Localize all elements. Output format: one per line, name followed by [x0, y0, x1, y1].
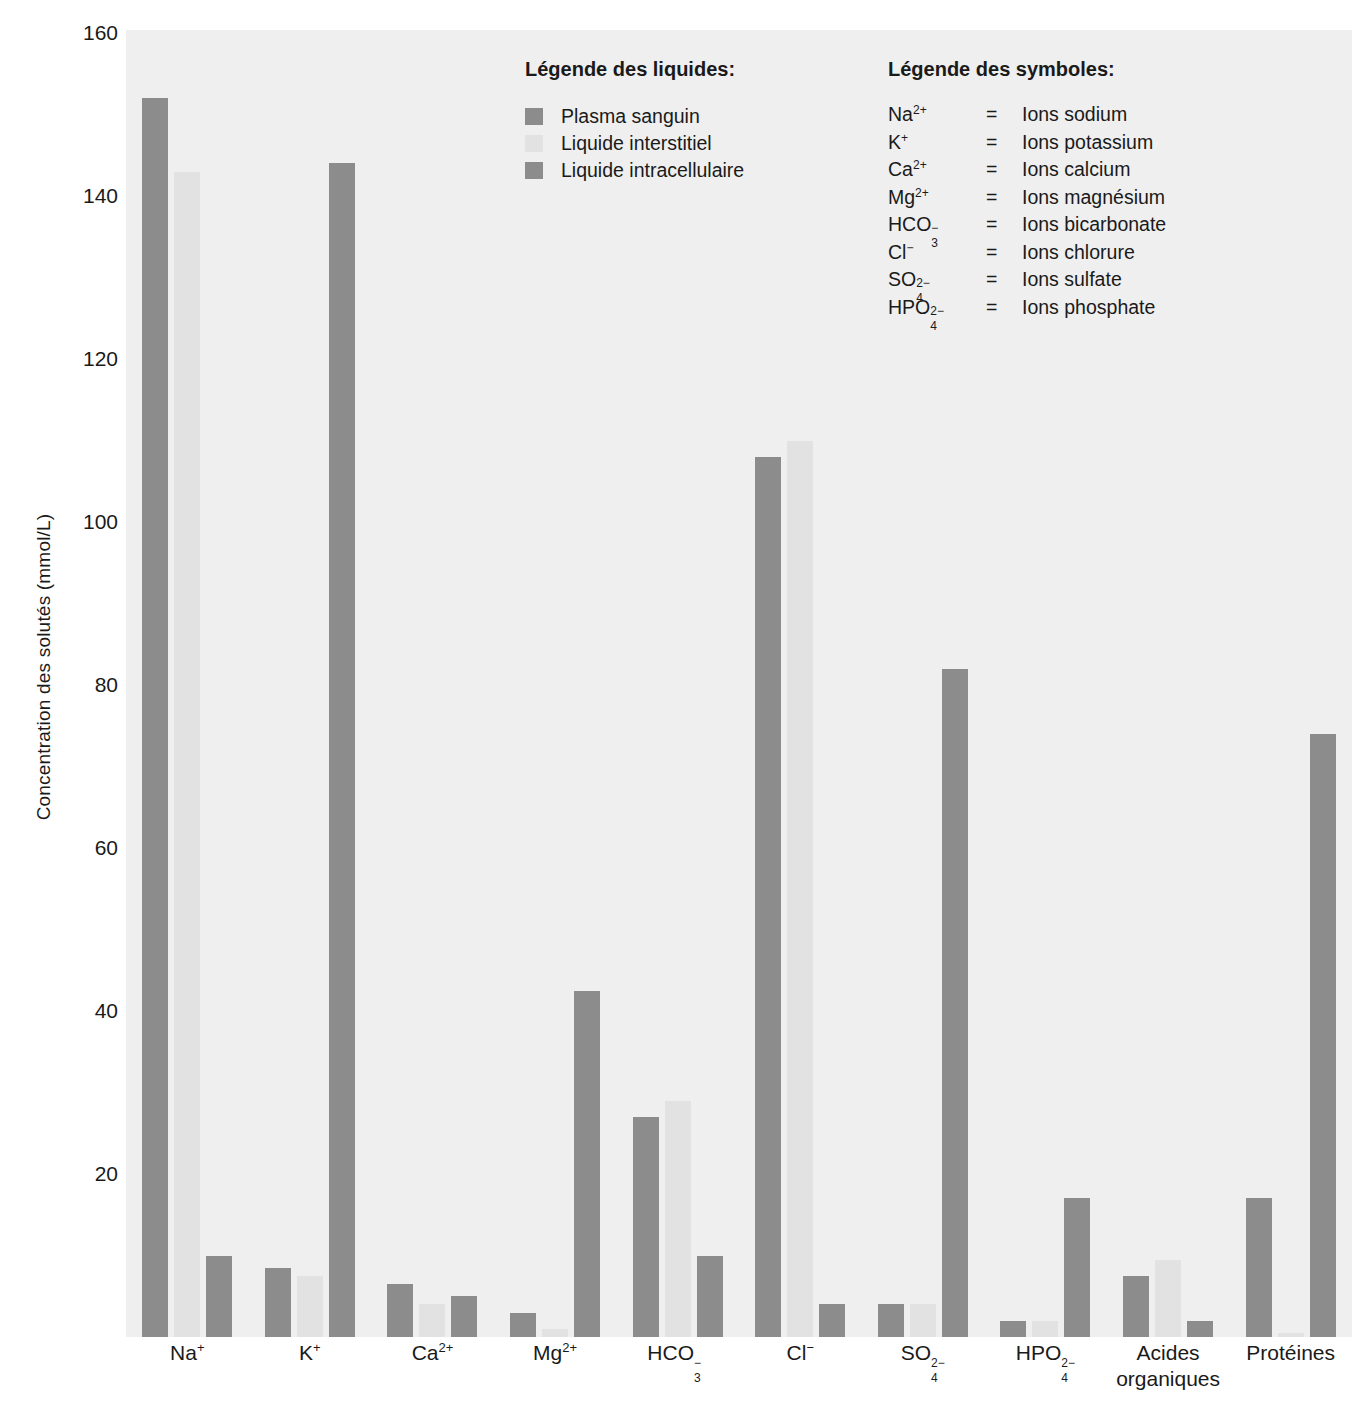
symbol-name: Ions phosphate — [1022, 296, 1188, 319]
bar — [1032, 1321, 1058, 1337]
symbol-legend-row: HPO2−4=Ions phosphate — [888, 296, 1188, 324]
symbol-formula: SO2−4 — [888, 268, 986, 291]
symbol-equals: = — [986, 268, 1022, 291]
bar — [510, 1313, 536, 1337]
symbol-legend-row: Na2+=Ions sodium — [888, 103, 1188, 131]
y-tick-160: 160 — [40, 22, 118, 43]
symbol-legend-row: HCO−3=Ions bicarbonate — [888, 213, 1188, 241]
symbol-formula: Na2+ — [888, 103, 986, 126]
x-tick-HCO3: HCO−3 — [616, 1340, 739, 1366]
symbol-formula: Ca2+ — [888, 158, 986, 181]
x-tick-Cl: Cl− — [739, 1340, 862, 1366]
bar-group — [739, 30, 862, 1337]
legend-item: Liquide intracellulaire — [525, 157, 825, 184]
legend-symboles-title: Légende des symboles: — [888, 58, 1188, 81]
legend-liquides: Légende des liquides: Plasma sanguinLiqu… — [525, 58, 825, 184]
bar — [942, 669, 968, 1337]
symbol-legend-row: Mg2+=Ions magnésium — [888, 186, 1188, 214]
legend-symboles: Légende des symboles: Na2+=Ions sodiumK+… — [888, 58, 1188, 323]
symbol-name: Ions bicarbonate — [1022, 213, 1188, 236]
legend-item-label: Liquide intracellulaire — [561, 159, 744, 182]
y-tick-60: 60 — [40, 837, 118, 858]
bar — [206, 1256, 232, 1338]
bar-group — [371, 30, 494, 1337]
bar — [451, 1296, 477, 1337]
bar — [174, 172, 200, 1337]
x-tick-Mg2: Mg2+ — [494, 1340, 617, 1366]
symbol-formula: K+ — [888, 131, 986, 154]
symbol-equals: = — [986, 186, 1022, 209]
y-tick-140: 140 — [40, 185, 118, 206]
bar — [419, 1304, 445, 1337]
bar-group — [616, 30, 739, 1337]
symbol-legend-row: Ca2+=Ions calcium — [888, 158, 1188, 186]
bar — [1187, 1321, 1213, 1337]
symbol-equals: = — [986, 241, 1022, 264]
bar — [329, 163, 355, 1337]
bar — [1064, 1198, 1090, 1337]
legend-liquides-title: Légende des liquides: — [525, 58, 825, 81]
bar — [265, 1268, 291, 1337]
y-tick-80: 80 — [40, 674, 118, 695]
legend-liquides-items: Plasma sanguinLiquide interstitielLiquid… — [525, 103, 825, 184]
symbol-legend-row: SO2−4=Ions sulfate — [888, 268, 1188, 296]
symbol-equals: = — [986, 103, 1022, 126]
symbol-name: Ions magnésium — [1022, 186, 1188, 209]
x-tick-HPO42: HPO2−4 — [984, 1340, 1107, 1366]
x-tick-K: K+ — [249, 1340, 372, 1366]
bar-group — [494, 30, 617, 1337]
symbol-formula: HCO−3 — [888, 213, 986, 236]
symbol-equals: = — [986, 131, 1022, 154]
x-tick-Ca2: Ca2+ — [371, 1340, 494, 1366]
y-tick-20: 20 — [40, 1163, 118, 1184]
bar — [787, 441, 813, 1338]
symbol-formula: HPO2−4 — [888, 296, 986, 319]
bar — [297, 1276, 323, 1337]
bar — [542, 1329, 568, 1337]
legend-item: Liquide interstitiel — [525, 130, 825, 157]
legend-swatch-icon — [525, 108, 543, 125]
symbol-name: Ions sodium — [1022, 103, 1188, 126]
bar-group — [1229, 30, 1352, 1337]
bar — [878, 1304, 904, 1337]
bar — [1123, 1276, 1149, 1337]
legend-item-label: Plasma sanguin — [561, 105, 700, 128]
bar-group — [249, 30, 372, 1337]
bar — [1155, 1260, 1181, 1337]
y-axis-tick-labels: 16014012010080604020 — [40, 0, 118, 1409]
symbol-equals: = — [986, 296, 1022, 319]
x-tick-Protines: Protéines — [1229, 1340, 1352, 1366]
symbol-formula: Mg2+ — [888, 186, 986, 209]
x-tick-Na: Na+ — [126, 1340, 249, 1366]
y-tick-40: 40 — [40, 1000, 118, 1021]
bar — [387, 1284, 413, 1337]
bar — [910, 1304, 936, 1337]
symbol-name: Ions chlorure — [1022, 241, 1188, 264]
bar — [755, 457, 781, 1337]
legend-swatch-icon — [525, 135, 543, 152]
symbol-name: Ions potassium — [1022, 131, 1188, 154]
bar — [1246, 1198, 1272, 1337]
bar — [697, 1256, 723, 1338]
x-tick-Acidesorganiques: Acidesorganiques — [1107, 1340, 1230, 1392]
x-axis-tick-labels: Na+K+Ca2+Mg2+HCO−3Cl−SO2−4HPO2−4Acidesor… — [126, 1340, 1352, 1409]
bar — [1000, 1321, 1026, 1337]
symbol-name: Ions sulfate — [1022, 268, 1188, 291]
legend-item: Plasma sanguin — [525, 103, 825, 130]
bar — [142, 98, 168, 1337]
bar — [633, 1117, 659, 1337]
bar — [1278, 1333, 1304, 1337]
bar — [819, 1304, 845, 1337]
x-tick-SO42: SO2−4 — [862, 1340, 985, 1366]
bar-chart-figure: Concentration des solutés (mmol/L) 16014… — [0, 0, 1362, 1409]
symbol-equals: = — [986, 158, 1022, 181]
legend-item-label: Liquide interstitiel — [561, 132, 712, 155]
y-tick-100: 100 — [40, 511, 118, 532]
legend-symboles-items: Na2+=Ions sodiumK+=Ions potassiumCa2+=Io… — [888, 103, 1188, 323]
y-tick-120: 120 — [40, 348, 118, 369]
symbol-equals: = — [986, 213, 1022, 236]
bar — [665, 1101, 691, 1337]
symbol-legend-row: K+=Ions potassium — [888, 131, 1188, 159]
bar-group — [126, 30, 249, 1337]
legend-swatch-icon — [525, 162, 543, 179]
